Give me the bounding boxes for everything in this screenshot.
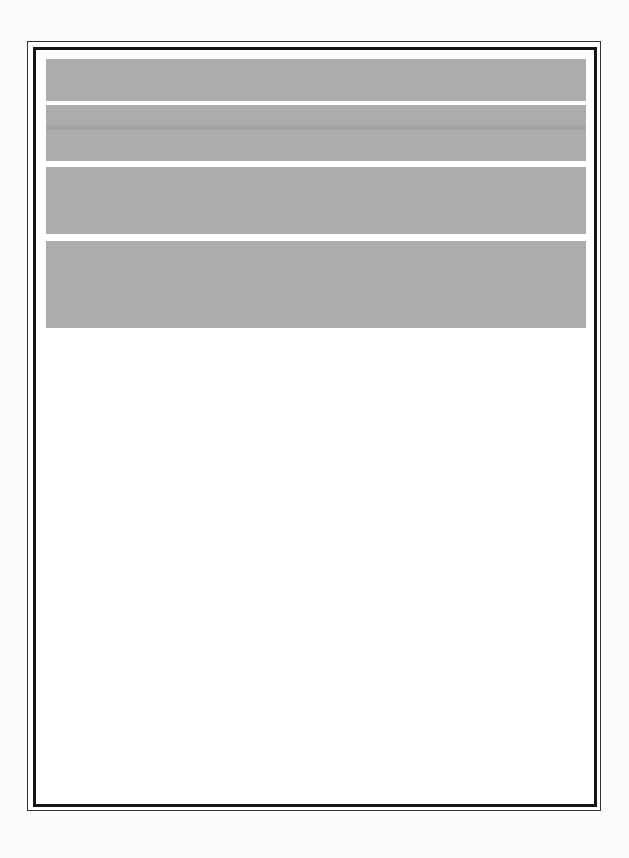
redacted-block-3 xyxy=(46,167,586,234)
inner-border-frame xyxy=(33,47,597,807)
redacted-block-4 xyxy=(46,241,586,328)
redacted-block-1 xyxy=(46,59,586,101)
redacted-block-2 xyxy=(46,105,586,161)
scan-streak xyxy=(46,125,586,130)
